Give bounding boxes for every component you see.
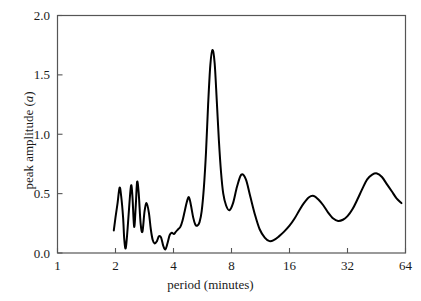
y-tick-label-0: 0.0	[12, 246, 50, 259]
spectrum-chart-figure: 2.0 1.5 1.0 0.5 0.0 1 2 4 8 16 32 64 per…	[0, 0, 421, 301]
x-tick-label-4: 4	[170, 259, 177, 272]
x-axis-title-text: period (minutes)	[167, 277, 253, 292]
x-tick-label-16: 16	[283, 259, 296, 272]
x-tick-label-2: 2	[112, 259, 119, 272]
chart-background	[0, 0, 421, 301]
x-axis-title: period (minutes)	[0, 278, 421, 291]
y-axis-title-symbol: a	[21, 96, 36, 103]
x-tick-label-64: 64	[399, 259, 412, 272]
x-tick-label-1: 1	[54, 259, 61, 272]
y-tick-label-2: 2.0	[12, 9, 50, 22]
x-tick-label-32: 32	[341, 259, 354, 272]
y-axis-title: peak amplitude (a)	[22, 51, 35, 231]
chart-canvas	[0, 0, 421, 301]
y-axis-title-prefix: peak amplitude (	[21, 102, 36, 189]
x-tick-label-8: 8	[228, 259, 235, 272]
y-axis-title-suffix: )	[21, 91, 36, 95]
